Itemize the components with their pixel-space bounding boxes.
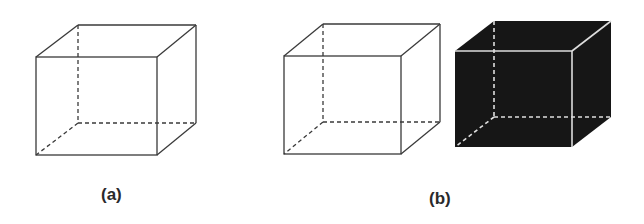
front-face <box>284 56 401 154</box>
solid-cube-b <box>455 21 611 147</box>
caption-a: (a) <box>101 186 122 203</box>
cube-figure <box>0 0 644 224</box>
wireframe-cube-a <box>36 25 196 155</box>
front-face <box>36 57 157 155</box>
caption-b: (b) <box>429 190 451 207</box>
wireframe-cube-b <box>284 24 440 154</box>
